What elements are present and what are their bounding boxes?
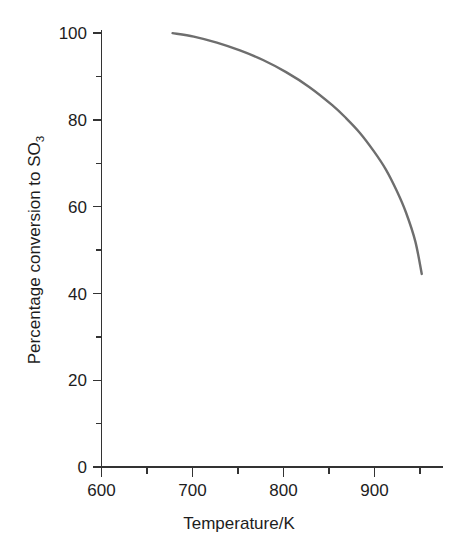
y-axis-minor-ticks xyxy=(96,77,102,424)
y-tick-label-40: 40 xyxy=(68,285,87,304)
y-axis-title-group: Percentage conversion to SO3 xyxy=(25,136,46,364)
y-axis-title: Percentage conversion to SO3 xyxy=(25,136,46,364)
x-tick-label-900: 900 xyxy=(360,481,388,500)
y-tick-label-100: 100 xyxy=(59,24,87,43)
conversion-curve xyxy=(173,33,422,274)
y-tick-label-20: 20 xyxy=(68,371,87,390)
line-chart: 100 80 60 40 20 0 600 700 800 900 Temper… xyxy=(0,0,457,557)
chart-figure: 100 80 60 40 20 0 600 700 800 900 Temper… xyxy=(0,0,457,557)
y-tick-label-80: 80 xyxy=(68,111,87,130)
x-axis-title: Temperature/K xyxy=(183,514,295,533)
y-axis-title-subscript: 3 xyxy=(34,136,46,142)
y-axis-title-main: Percentage conversion to SO xyxy=(25,142,44,364)
x-tick-label-800: 800 xyxy=(269,481,297,500)
y-tick-label-60: 60 xyxy=(68,198,87,217)
y-tick-label-0: 0 xyxy=(78,458,87,477)
x-tick-label-600: 600 xyxy=(87,481,115,500)
x-tick-label-700: 700 xyxy=(178,481,206,500)
